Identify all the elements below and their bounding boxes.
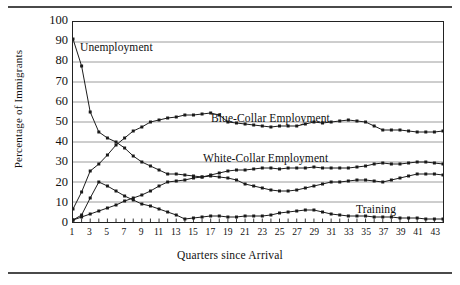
series-marker [89,213,92,216]
series-marker [398,129,401,132]
series-marker [416,173,419,176]
series-marker [407,175,410,178]
series-marker [287,211,290,214]
series-marker [226,177,229,180]
series-marker [235,179,238,182]
series-marker [123,137,126,140]
series-marker [442,174,443,177]
series-marker [364,179,367,182]
series-marker [433,162,436,165]
series-marker [175,116,178,119]
series-marker [140,194,143,197]
series-marker [149,165,152,168]
series-marker [347,180,350,183]
series-marker [244,183,247,186]
series-marker [381,181,384,184]
series-marker [123,200,126,203]
series-marker [312,185,315,188]
series-marker [73,219,74,222]
series-marker [373,125,376,128]
series-marker [192,177,195,180]
series-marker [433,218,436,221]
series-marker [407,217,410,220]
series-marker [158,119,161,122]
series-marker [97,163,100,166]
series-marker [304,187,307,190]
series-marker [330,167,333,170]
series-marker [252,168,255,171]
series-marker [149,121,152,124]
series-marker [201,113,204,116]
series-marker [175,173,178,176]
series-marker [80,65,83,68]
series-marker [149,190,152,193]
series-marker [89,111,92,114]
series-marker [321,167,324,170]
series-marker [166,211,169,214]
series-marker [407,162,410,165]
series-marker [192,217,195,220]
series-marker [218,215,221,218]
series-annotation: Unemployment [80,41,153,53]
series-marker [106,207,109,210]
series-marker [218,172,221,175]
series-marker [373,216,376,219]
series-marker [330,213,333,216]
series-marker [166,117,169,120]
series-marker [269,214,272,217]
series-marker [175,180,178,183]
series-marker [158,185,161,188]
series-marker [424,173,427,176]
series-marker [226,216,229,219]
series-marker [416,217,419,220]
series-marker [80,214,83,217]
series-marker [106,185,109,188]
series-marker [338,120,341,123]
series-marker [424,218,427,221]
series-marker [355,166,358,169]
x-tick-label: 43 [425,226,445,237]
series-marker [244,215,247,218]
series-marker [115,204,118,207]
series-marker [407,130,410,133]
series-marker [347,215,350,218]
series-marker [347,167,350,170]
series-marker [115,141,118,144]
series-marker [424,131,427,134]
series-marker [321,183,324,186]
series-marker [433,173,436,176]
series-marker [252,185,255,188]
series-marker [390,163,393,166]
series-marker [424,161,427,164]
series-marker [158,208,161,211]
series-marker [442,163,443,166]
series-marker [73,208,74,211]
series-marker [183,218,186,221]
series-marker [321,211,324,214]
series-annotation: White-Collar Employment [203,152,328,164]
series-marker [201,176,204,179]
series-annotation: Blue-Collar Employment [211,112,330,124]
series-marker [132,155,135,158]
series-annotation: Training [356,203,396,215]
series-marker [106,137,109,140]
series-marker [183,114,186,117]
series-marker [80,191,83,194]
series-marker [416,131,419,134]
series-marker [304,167,307,170]
series-marker [89,170,92,173]
series-marker [373,163,376,166]
series-marker [338,181,341,184]
series-marker [123,195,126,198]
series-marker [89,197,92,200]
series-marker [106,154,109,157]
series-marker [442,130,443,133]
series-marker [330,181,333,184]
series-marker [295,167,298,170]
series-marker [261,125,264,128]
series-marker [398,177,401,180]
series-marker [252,215,255,218]
series-marker [433,131,436,134]
series-marker [287,125,290,128]
series-marker [201,216,204,219]
